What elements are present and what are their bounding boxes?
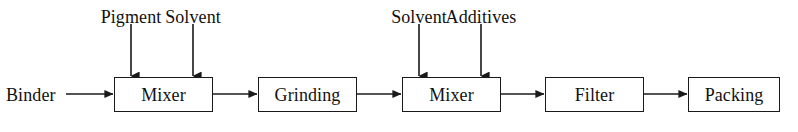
stream-label-solvent-2: Solvent	[391, 8, 447, 26]
process-box-label: Filter	[575, 86, 615, 104]
process-box-label: Grinding	[275, 86, 341, 104]
process-box-label: Mixer	[429, 86, 474, 104]
process-flow-diagram: Mixer Grinding Mixer Filter Packing Bind…	[0, 0, 798, 132]
process-box-grinding[interactable]: Grinding	[258, 77, 357, 112]
process-box-packing[interactable]: Packing	[688, 77, 780, 112]
stream-label-pigment: Pigment	[101, 8, 162, 26]
process-box-mixer-1[interactable]: Mixer	[114, 77, 213, 112]
process-box-label: Mixer	[141, 86, 186, 104]
process-box-filter[interactable]: Filter	[545, 77, 644, 112]
process-box-mixer-2[interactable]: Mixer	[402, 77, 501, 112]
stream-label-additives: Additives	[446, 8, 517, 26]
process-box-label: Packing	[705, 86, 764, 104]
stream-label-solvent-1: Solvent	[165, 8, 221, 26]
stream-label-binder: Binder	[6, 86, 56, 104]
